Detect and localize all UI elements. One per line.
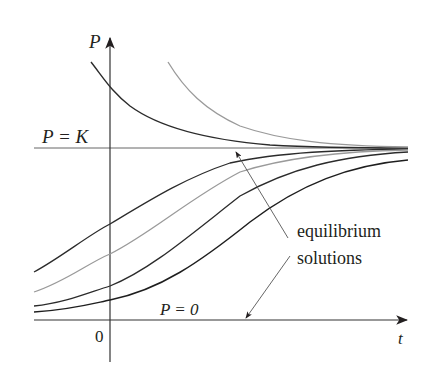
- arrow-to-K: [236, 152, 288, 238]
- carrying-capacity-label: P = K: [41, 126, 90, 147]
- origin-label: 0: [95, 327, 104, 346]
- p-axis-label: P: [88, 31, 101, 52]
- logistic-diagram: P t 0 P = K P = 0 equilibrium solutions: [0, 0, 436, 382]
- annotation-line-2: solutions: [297, 248, 362, 268]
- annotation-line-1: equilibrium: [297, 221, 381, 241]
- zero-equilibrium-label: P = 0: [159, 300, 199, 319]
- t-axis-label: t: [398, 329, 404, 348]
- curve-above-k-light: [168, 62, 408, 147]
- curve-above-k-dark: [91, 62, 408, 148]
- arrow-to-zero: [246, 256, 290, 318]
